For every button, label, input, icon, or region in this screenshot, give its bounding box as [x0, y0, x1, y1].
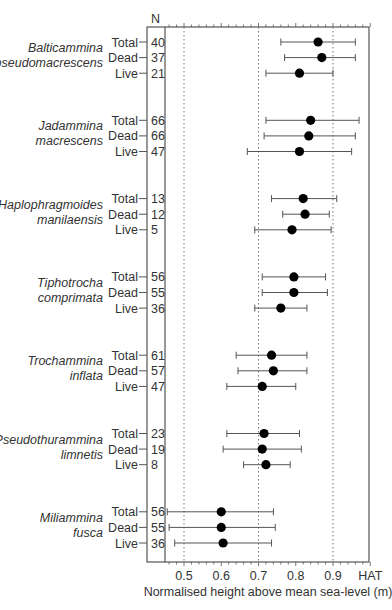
mean-dot: [217, 507, 226, 516]
x-tick-label: 0.8: [287, 569, 304, 583]
sample-count: 19: [151, 443, 165, 457]
species-name-line1: Jadammina: [37, 119, 103, 133]
sample-count: 47: [151, 380, 165, 394]
species-groups: BalticamminapseudomacrescensTotal40Dead3…: [0, 36, 359, 551]
species-group: HaplophragmoidesmanilaensisTotal13Dead12…: [0, 192, 337, 237]
sample-count: 23: [151, 427, 165, 441]
row-label: Dead: [108, 51, 138, 65]
sample-count: 61: [151, 349, 165, 363]
row-label: Total: [112, 36, 138, 50]
sample-count: 36: [151, 302, 165, 316]
reference-lines: [184, 27, 333, 562]
mean-dot: [217, 523, 226, 532]
row-label: Total: [112, 505, 138, 519]
mean-dot: [261, 460, 270, 469]
mean-dot: [304, 131, 313, 140]
data-row: Total56: [112, 505, 274, 519]
mean-dot: [289, 272, 298, 281]
species-name-line1: Tiphotrocha: [37, 276, 103, 290]
mean-dot: [306, 116, 315, 125]
data-row: Live8: [115, 458, 290, 472]
mean-dot: [287, 225, 296, 234]
mean-dot: [314, 37, 323, 46]
sample-count: 21: [151, 67, 165, 81]
species-name-line2: comprimata: [38, 291, 103, 305]
data-row: Dead12: [108, 208, 329, 222]
data-row: Live47: [115, 145, 352, 159]
row-label: Live: [115, 223, 138, 237]
species-name-line1: Trochammina: [28, 354, 104, 368]
error-bar-chart: 0.50.60.70.80.9HAT Balticamminapseudomac…: [0, 0, 392, 610]
species-name-line1: Balticammina: [28, 41, 103, 55]
species-name-line2: fusca: [73, 526, 103, 540]
data-row: Live36: [115, 302, 307, 316]
sample-count: 40: [151, 36, 165, 50]
row-label: Dead: [108, 443, 138, 457]
row-label: Live: [115, 302, 138, 316]
species-name-line1: Pseudothurammina: [0, 433, 103, 447]
sample-count: 13: [151, 192, 165, 206]
data-row: Dead55: [108, 286, 327, 300]
species-name-line2: pseudomacrescens: [0, 56, 103, 70]
species-name-line2: limnetis: [61, 448, 103, 462]
row-label: Live: [115, 67, 138, 81]
x-tick-label: 0.5: [175, 569, 192, 583]
data-row: Dead55: [108, 521, 275, 535]
data-row: Dead37: [108, 51, 355, 65]
row-label: Total: [112, 349, 138, 363]
sample-count: 56: [151, 505, 165, 519]
data-row: Dead57: [108, 364, 307, 378]
data-row: Total23: [112, 427, 300, 441]
data-row: Dead66: [108, 129, 355, 143]
sample-count: 66: [151, 129, 165, 143]
row-label: Total: [112, 270, 138, 284]
species-name-line1: Haplophragmoides: [0, 198, 103, 212]
row-label: Live: [115, 458, 138, 472]
species-group: TrochamminainflataTotal61Dead57Live47: [28, 349, 307, 394]
x-tick-label: HAT: [358, 569, 382, 583]
species-group: BalticamminapseudomacrescensTotal40Dead3…: [0, 36, 355, 81]
sample-count: 55: [151, 521, 165, 535]
species-group: JadamminamacrescensTotal66Dead66Live47: [36, 114, 359, 159]
sample-count: 5: [151, 223, 158, 237]
sample-count: 55: [151, 286, 165, 300]
species-group: TiphotrochacomprimataTotal56Dead55Live36: [37, 270, 327, 315]
sample-count: 8: [151, 458, 158, 472]
sample-count: 57: [151, 364, 165, 378]
mean-dot: [269, 366, 278, 375]
row-label: Total: [112, 192, 138, 206]
species-name-line2: manilaensis: [37, 213, 103, 227]
mean-dot: [289, 288, 298, 297]
row-label: Live: [115, 145, 138, 159]
sample-count: 47: [151, 145, 165, 159]
x-tick-label: 0.6: [213, 569, 230, 583]
species-name-line2: macrescens: [36, 134, 103, 148]
mean-dot: [259, 429, 268, 438]
row-label: Total: [112, 427, 138, 441]
mean-dot: [295, 147, 304, 156]
data-row: Dead19: [108, 443, 301, 457]
species-name-line2: inflata: [70, 369, 103, 383]
row-label: Dead: [108, 364, 138, 378]
row-label: Total: [112, 114, 138, 128]
mean-dot: [317, 53, 326, 62]
data-row: Live21: [115, 67, 333, 81]
row-label: Dead: [108, 129, 138, 143]
data-row: Total56: [112, 270, 326, 284]
x-tick-label: 0.9: [324, 569, 341, 583]
x-tick-label: 0.7: [250, 569, 267, 583]
data-row: Total40: [112, 36, 356, 50]
species-name-line1: Miliammina: [40, 511, 103, 525]
data-row: Total61: [112, 349, 307, 363]
mean-dot: [258, 445, 267, 454]
sample-count: 12: [151, 208, 165, 222]
mean-dot: [267, 351, 276, 360]
mean-dot: [258, 382, 267, 391]
data-row: Live36: [115, 537, 271, 551]
mean-dot: [219, 538, 228, 547]
mean-dot: [300, 210, 309, 219]
sample-count: 56: [151, 270, 165, 284]
row-label: Dead: [108, 208, 138, 222]
n-column-header: N: [151, 12, 160, 26]
data-row: Total13: [112, 192, 337, 206]
